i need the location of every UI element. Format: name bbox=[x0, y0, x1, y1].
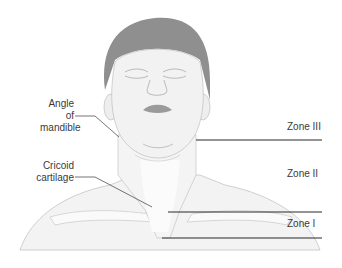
cricoid-cartilage-label: Cricoid cartilage bbox=[30, 160, 74, 184]
cricoid-cartilage-line-2: cartilage bbox=[30, 172, 74, 184]
angle-of-mandible-line-2: mandible bbox=[40, 122, 74, 134]
face bbox=[112, 49, 204, 158]
angle-of-mandible-label: Angle of mandible bbox=[40, 98, 74, 134]
zone-1-label: Zone I bbox=[287, 218, 315, 230]
angle-of-mandible-line-1: Angle of bbox=[40, 98, 74, 122]
zone-3-label: Zone III bbox=[287, 121, 321, 133]
cricoid-cartilage-line-1: Cricoid bbox=[30, 160, 74, 172]
zone-2-label: Zone II bbox=[287, 168, 318, 180]
